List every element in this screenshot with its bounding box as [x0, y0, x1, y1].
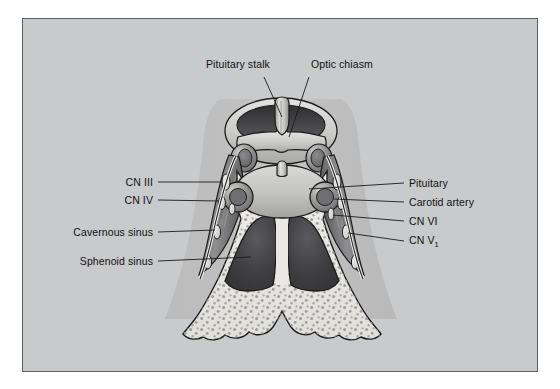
label-cn-v1-text: CN V [409, 234, 435, 246]
label-carotid-artery: Carotid artery [409, 197, 474, 208]
label-cn-vi-text: CN VI [409, 215, 438, 227]
label-cn-v1-subscript: 1 [435, 240, 439, 249]
label-pituitary-stalk: Pituitary stalk [206, 59, 270, 70]
label-carotid-artery-text: Carotid artery [409, 196, 474, 208]
label-cn-iv-text: CN IV [124, 194, 153, 206]
label-cn-v1: CN V1 [409, 235, 439, 249]
label-sphenoid-sinus: Sphenoid sinus [31, 256, 153, 267]
label-optic-chiasm-text: Optic chiasm [311, 58, 373, 70]
label-optic-chiasm: Optic chiasm [311, 59, 373, 70]
label-cavernous-sinus: Cavernous sinus [31, 227, 153, 238]
cn-vi-left [229, 204, 235, 215]
label-cn-vi: CN VI [409, 216, 438, 227]
label-cn-iii: CN III [83, 177, 153, 188]
cn-vi-right [328, 208, 334, 220]
label-pituitary-stalk-text: Pituitary stalk [206, 58, 270, 70]
sphenoid-septum [276, 217, 288, 285]
label-cavernous-sinus-text: Cavernous sinus [73, 226, 153, 238]
figure-frame: Pituitary stalk Optic chiasm CN III CN I… [22, 18, 538, 372]
label-sphenoid-sinus-text: Sphenoid sinus [80, 255, 153, 267]
figure-root: Pituitary stalk Optic chiasm CN III CN I… [0, 0, 560, 389]
label-pituitary-text: Pituitary [409, 177, 448, 189]
label-pituitary: Pituitary [409, 178, 448, 189]
label-cn-iii-text: CN III [126, 176, 153, 188]
label-cn-iv: CN IV [83, 195, 153, 206]
